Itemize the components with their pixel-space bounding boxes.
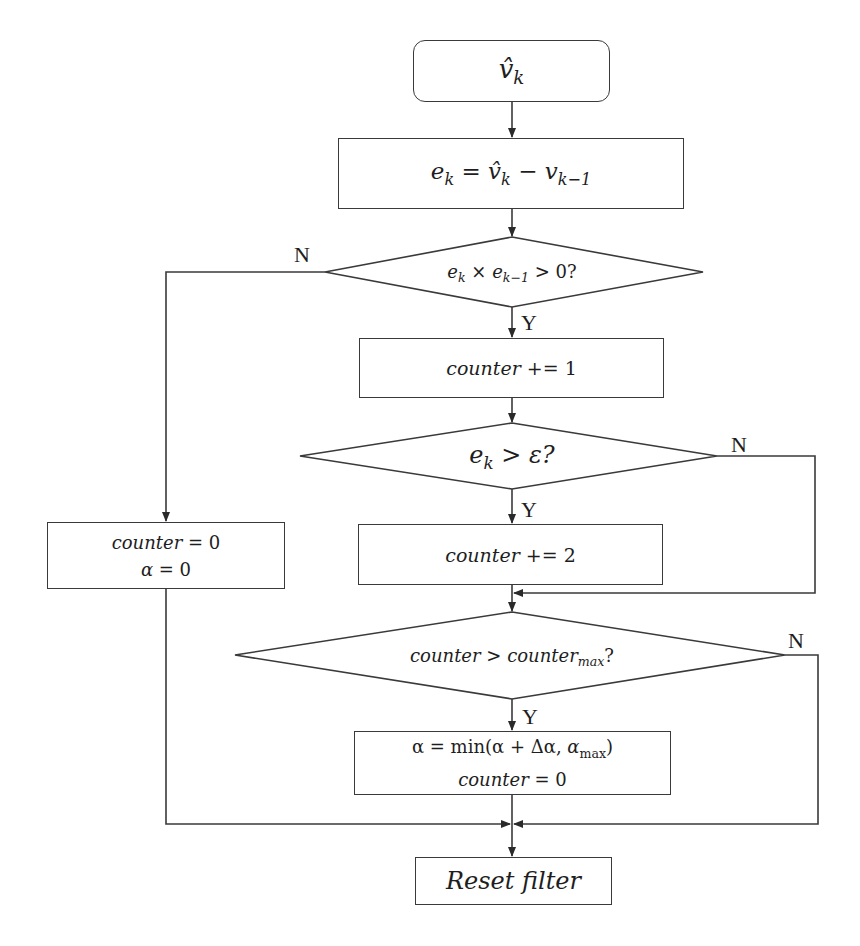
update-alpha-node: α = min(α + Δα, αmax) counter = 0 xyxy=(354,731,671,795)
increment-two-node: counter += 2 xyxy=(358,524,663,585)
max-yes-label: Y xyxy=(522,704,538,730)
flowchart: v̂k ek = v̂k − vk−1 ek × ek−1 > 0? N Y c… xyxy=(0,0,860,946)
threshold-no-label: N xyxy=(731,432,747,458)
error-node: ek = v̂k − vk−1 xyxy=(338,138,684,209)
sign-yes-label: Y xyxy=(521,310,537,336)
start-symbol: v̂ xyxy=(499,54,514,84)
max-no-label: N xyxy=(788,628,804,654)
sign-no-label: N xyxy=(294,242,310,268)
sign-check-decision: ek × ek−1 > 0? xyxy=(447,261,576,286)
reset-filter-node: Reset filter xyxy=(415,857,612,905)
threshold-check-decision: ek > ε? xyxy=(469,441,555,473)
start-node: v̂k xyxy=(413,40,610,102)
max-check-decision: counter > countermax? xyxy=(410,645,614,670)
increment-one-node: counter += 1 xyxy=(359,338,664,398)
threshold-yes-label: Y xyxy=(521,497,537,523)
reset-counter-node: counter = 0 α = 0 xyxy=(47,522,285,589)
